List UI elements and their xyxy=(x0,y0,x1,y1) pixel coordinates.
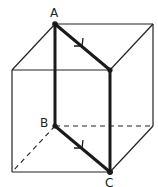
edge-top-left xyxy=(12,24,55,70)
edge-hidden-bottom-left xyxy=(12,126,55,172)
edge-bottom-right xyxy=(110,126,153,172)
label-C: C xyxy=(105,176,113,187)
arrow-markers xyxy=(74,38,83,148)
vertex-top-front xyxy=(107,67,112,72)
vertex-B xyxy=(52,123,57,128)
cube-diagram: A B C xyxy=(0,0,158,187)
edge-top-right xyxy=(110,24,153,70)
path-B-C xyxy=(55,126,110,172)
label-A: A xyxy=(50,6,59,20)
vertex-C xyxy=(107,169,113,175)
path-A-topfront xyxy=(55,24,110,70)
label-B: B xyxy=(40,116,48,130)
vertex-A xyxy=(52,21,58,27)
